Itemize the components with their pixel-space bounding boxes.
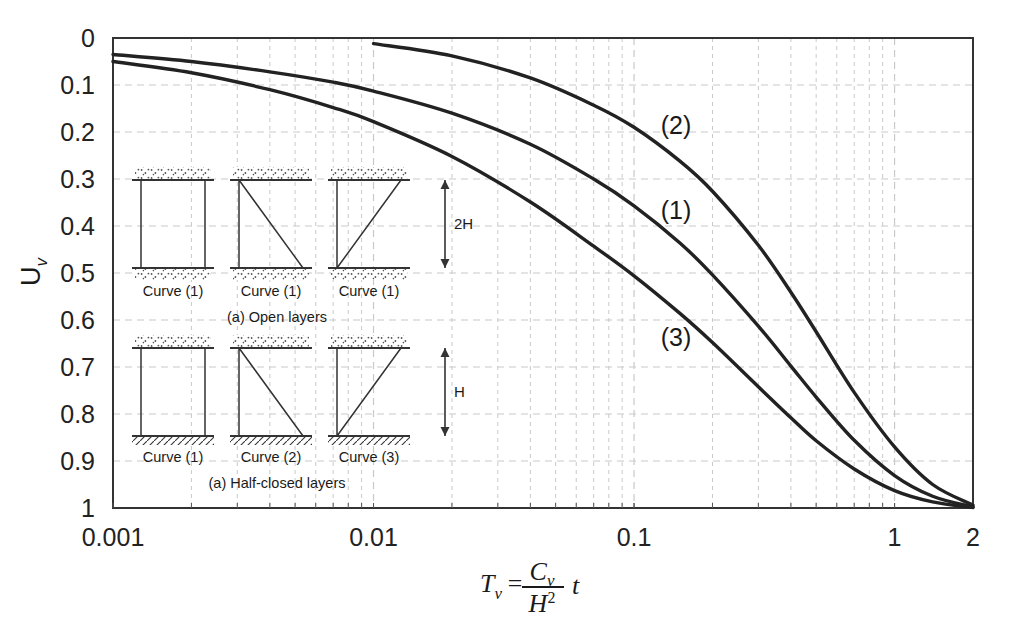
formula-denominator-sup: 2: [547, 589, 555, 606]
inset-group-caption: (a) Open layers: [227, 309, 327, 325]
y-tick-label: 0: [81, 24, 95, 52]
inset-panel-label: Curve (2): [241, 449, 301, 465]
porous-layer-icon: [331, 269, 407, 280]
dimension-label: 2H: [454, 215, 473, 232]
inset-group-caption: (a) Half-closed layers: [209, 475, 346, 491]
porous-layer-icon: [135, 335, 211, 347]
y-tick-label: 0.1: [60, 71, 95, 99]
y-tick-label: 0.4: [60, 212, 95, 240]
y-tick-label: 1: [81, 494, 95, 522]
porous-layer-icon: [233, 335, 309, 347]
porous-layer-icon: [135, 269, 211, 280]
y-tick-label: 0.9: [60, 447, 95, 475]
chart-canvas: 00.10.20.30.40.50.60.70.80.91 0.0010.010…: [0, 0, 1014, 642]
formula-tail: t: [572, 571, 580, 600]
formula-numerator: C: [530, 557, 548, 586]
x-tick-label: 1: [888, 523, 902, 551]
y-axis-title-main: U: [16, 267, 46, 287]
inset-panel-label: Curve (1): [143, 283, 203, 299]
inset-panel-label: Curve (1): [143, 449, 203, 465]
curve-label: (2): [661, 111, 692, 139]
y-tick-label: 0.3: [60, 165, 95, 193]
curve-label: (1): [661, 196, 692, 224]
inset-panel-label: Curve (3): [339, 449, 399, 465]
porous-layer-icon: [233, 269, 309, 280]
impermeable-base-icon: [132, 436, 214, 445]
consolidation-chart-figure: 00.10.20.30.40.50.60.70.80.91 0.0010.010…: [0, 0, 1014, 642]
impermeable-base-icon: [230, 436, 312, 445]
x-tick-label: 0.01: [349, 523, 398, 551]
formula-denominator: H: [528, 589, 549, 618]
inset-panel-label: Curve (1): [339, 283, 399, 299]
inset-panel-label: Curve (1): [241, 283, 301, 299]
formula-lhs-sub: v: [494, 584, 502, 603]
y-tick-label: 0.5: [60, 259, 95, 287]
y-tick-label: 0.7: [60, 353, 95, 381]
dimension-label: H: [454, 383, 465, 400]
formula-equals: =: [506, 569, 524, 598]
porous-layer-icon: [233, 167, 309, 179]
x-tick-label: 0.1: [617, 523, 652, 551]
x-tick-label: 2: [966, 523, 980, 551]
porous-layer-icon: [331, 167, 407, 179]
x-tick-label: 0.001: [82, 523, 145, 551]
y-tick-label: 0.6: [60, 306, 95, 334]
y-tick-label: 0.2: [60, 118, 95, 146]
impermeable-base-icon: [328, 436, 410, 445]
chart-background: [0, 0, 1014, 642]
curve-label: (3): [661, 323, 692, 351]
y-tick-label: 0.8: [60, 400, 95, 428]
y-axis-tick-labels: 00.10.20.30.40.50.60.70.80.91: [60, 24, 95, 522]
porous-layer-icon: [331, 335, 407, 347]
porous-layer-icon: [135, 167, 211, 179]
